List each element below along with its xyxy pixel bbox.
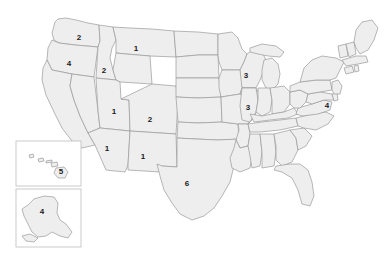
us-state-map: 2 4 2 1 1 2 1 1 6 3 3 4 5 4 xyxy=(0,0,386,263)
state-massachusetts[interactable] xyxy=(342,56,368,66)
state-new-york[interactable] xyxy=(300,56,344,82)
hawaii-inset-frame xyxy=(16,141,81,186)
contiguous-us-group xyxy=(42,18,378,220)
island-oahu[interactable] xyxy=(38,158,44,162)
map-svg-canvas xyxy=(0,0,386,263)
state-arizona[interactable] xyxy=(88,128,130,172)
state-florida[interactable] xyxy=(274,164,314,206)
state-ohio[interactable] xyxy=(270,86,290,114)
state-utah[interactable] xyxy=(96,78,130,131)
state-indiana[interactable] xyxy=(256,88,272,116)
state-montana[interactable] xyxy=(113,27,176,57)
island-maui[interactable] xyxy=(51,162,58,167)
state-oklahoma[interactable] xyxy=(177,122,239,140)
state-south-dakota[interactable] xyxy=(176,55,219,78)
state-alabama[interactable] xyxy=(260,134,276,168)
state-iowa[interactable] xyxy=(219,70,242,97)
island-kauai[interactable] xyxy=(29,154,34,158)
state-michigan-lower[interactable] xyxy=(262,58,280,90)
state-connecticut[interactable] xyxy=(344,66,354,74)
state-colorado[interactable] xyxy=(121,84,178,134)
state-north-dakota[interactable] xyxy=(174,31,218,57)
state-kansas[interactable] xyxy=(176,97,222,123)
state-wyoming[interactable] xyxy=(113,53,152,84)
state-new-mexico[interactable] xyxy=(128,131,177,172)
state-washington[interactable] xyxy=(52,18,100,47)
state-nebraska[interactable] xyxy=(176,78,221,98)
state-rhode-island[interactable] xyxy=(354,65,359,72)
state-maine[interactable] xyxy=(354,20,378,54)
state-new-jersey[interactable] xyxy=(332,80,342,94)
